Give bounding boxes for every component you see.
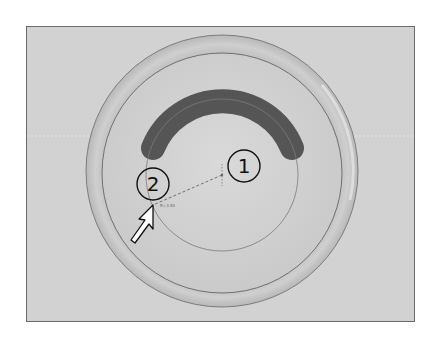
callout-2-label: 2 (147, 172, 160, 196)
cursor-tooltip: R=3.50 (160, 203, 175, 208)
drawing-scene: R=3.50 1 2 (0, 0, 439, 348)
callout-1-label: 1 (238, 154, 251, 178)
